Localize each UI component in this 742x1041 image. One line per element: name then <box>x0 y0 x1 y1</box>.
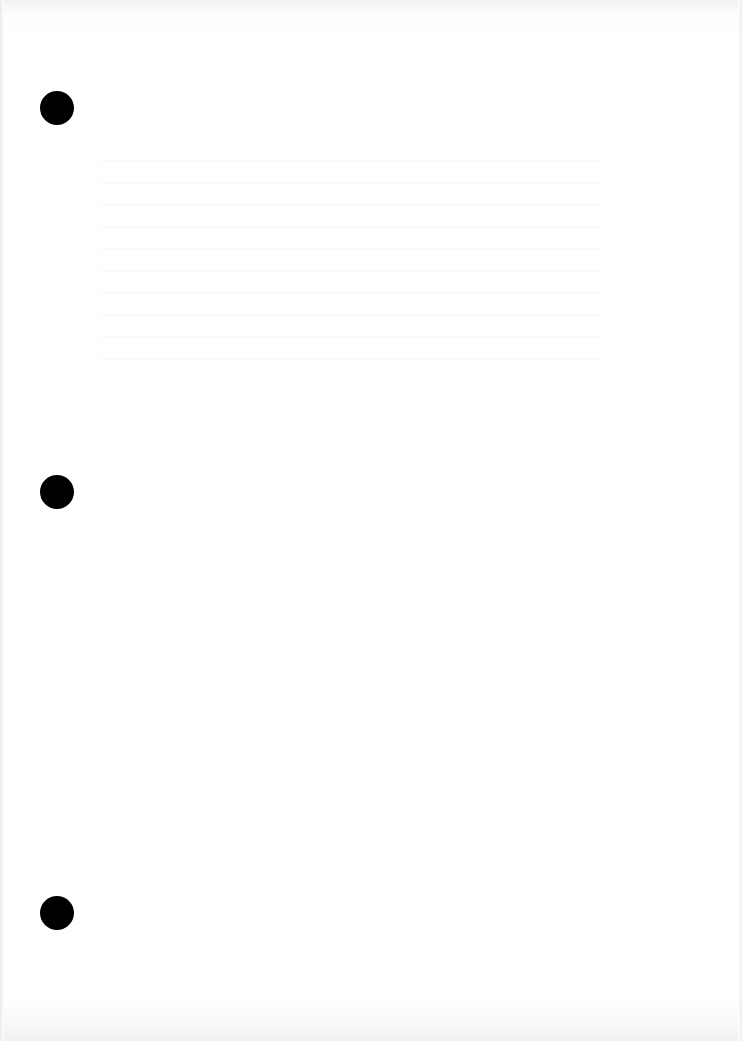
page-edge-left <box>0 0 4 1041</box>
punch-hole-middle <box>40 475 74 509</box>
punch-hole-bottom <box>40 896 74 930</box>
page-edge-right <box>738 0 742 1041</box>
blank-page <box>0 0 742 1041</box>
bleed-through-noise <box>100 160 600 380</box>
punch-hole-top <box>40 91 74 125</box>
